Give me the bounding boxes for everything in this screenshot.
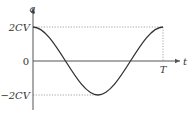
- y-axis-label: q: [29, 3, 35, 14]
- charge-vs-time-chart: q t 2CV 0 −2CV T: [0, 0, 194, 114]
- x-axis-label: t: [183, 56, 188, 67]
- x-tick-period: T: [160, 64, 168, 75]
- y-tick-bottom: −2CV: [0, 90, 31, 101]
- y-tick-zero: 0: [23, 56, 29, 67]
- y-tick-top: 2CV: [8, 22, 32, 33]
